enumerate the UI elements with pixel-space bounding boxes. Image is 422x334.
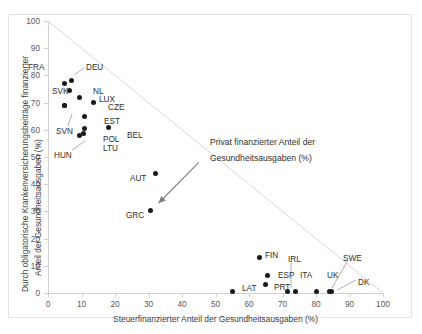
scatter-chart: 0102030405060708090100010203040506070809… xyxy=(0,0,422,334)
point-label-swe: SWE xyxy=(343,255,362,263)
point-label-prt: PRT xyxy=(274,284,290,292)
point-label-svn: SVN xyxy=(56,128,73,136)
point-label-fin: FIN xyxy=(265,252,278,260)
point-label-irl: IRL xyxy=(288,256,301,264)
point-label-svk: SVK xyxy=(52,88,68,96)
annotation-line-2: Gesundheitsausgaben (%) xyxy=(210,152,312,165)
point-label-esp: ESP xyxy=(278,272,294,280)
point-label-ita: ITA xyxy=(300,272,312,280)
point-label-ltu: LTU xyxy=(103,145,118,153)
point-label-uk: UK xyxy=(327,272,338,280)
point-label-aut: AUT xyxy=(130,175,146,183)
point-label-pol: POL xyxy=(103,136,119,144)
annotation-line-1: Privat finanzierter Anteil der xyxy=(210,136,315,149)
point-label-deu: DEU xyxy=(86,64,103,72)
point-label-cze: CZE xyxy=(108,104,124,112)
point-label-bel: BEL xyxy=(127,132,142,140)
point-label-grc: GRC xyxy=(126,212,144,220)
point-label-dk: DK xyxy=(358,279,369,287)
point-labels: FRADEUSVKNLLUXCZESVNESTPOLBELLTUHUNAUTGR… xyxy=(0,0,422,334)
point-label-lat: LAT xyxy=(242,285,256,293)
point-label-fra: FRA xyxy=(28,64,44,72)
point-label-est: EST xyxy=(104,118,120,126)
point-label-hun: HUN xyxy=(54,152,72,160)
